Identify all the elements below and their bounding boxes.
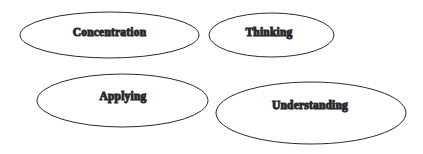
node-understanding[interactable]: Understanding [216,82,406,144]
node-label-applying: Applying [100,90,147,103]
node-concentration[interactable]: Concentration [20,12,199,58]
ellipse-shape-understanding[interactable] [216,82,406,144]
node-applying[interactable]: Applying [37,74,208,127]
node-label-thinking: Thinking [246,26,293,39]
diagram-canvas: Concentration Thinking Applying Understa… [0,0,423,154]
node-label-concentration: Concentration [73,26,147,38]
node-thinking[interactable]: Thinking [209,13,334,57]
ellipse-diagram: Concentration Thinking Applying Understa… [0,0,423,154]
node-label-understanding: Understanding [272,99,348,112]
